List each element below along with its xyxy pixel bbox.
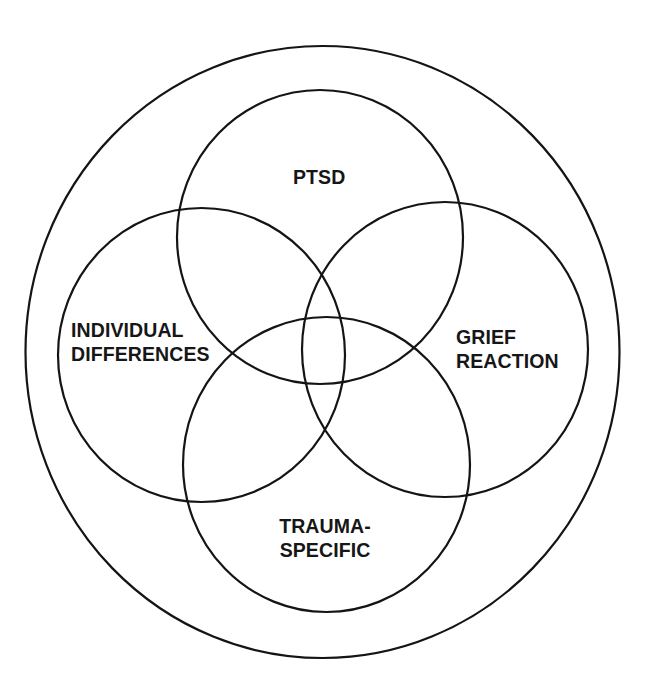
ptsd-label-line-1: PTSD bbox=[293, 166, 345, 190]
ptsd-circle bbox=[177, 90, 463, 384]
trauma-specific-label-line-1: TRAUMA- bbox=[276, 515, 374, 539]
individual-differences-label-line-1: INDIVIDUAL bbox=[71, 319, 210, 343]
trauma-specific-label-line-2: SPECIFIC bbox=[276, 539, 374, 563]
individual-differences-label: INDIVIDUAL DIFFERENCES bbox=[71, 319, 210, 366]
grief-reaction-label-line-1: GRIEF bbox=[456, 326, 559, 350]
grief-reaction-label-line-2: REACTION bbox=[456, 350, 559, 374]
individual-differences-label-line-2: DIFFERENCES bbox=[71, 343, 210, 367]
venn-diagram: PTSD INDIVIDUAL DIFFERENCES GRIEF REACTI… bbox=[0, 0, 645, 684]
trauma-specific-circle bbox=[183, 317, 470, 612]
ptsd-label: PTSD bbox=[293, 166, 345, 190]
grief-reaction-label: GRIEF REACTION bbox=[456, 326, 559, 373]
trauma-specific-label: TRAUMA- SPECIFIC bbox=[276, 515, 374, 562]
